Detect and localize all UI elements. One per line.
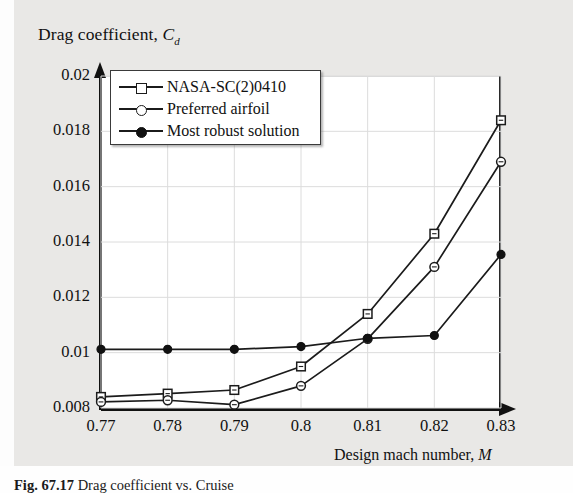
figure-caption: Fig. 67.17 Drag coefficient vs. Cruise	[14, 477, 234, 493]
marker-filled-circle-icon	[164, 345, 172, 353]
marker-filled-circle-icon	[430, 332, 438, 340]
marker-filled-circle-icon	[230, 345, 238, 353]
x-axis-title: Design mach number, M	[334, 446, 492, 464]
x-tick-label: 0.79	[204, 416, 264, 436]
figure-caption-rest: Drag coefficient vs. Cruise	[74, 477, 234, 493]
chart-legend: NASA-SC(2)0410Preferred airfoilMost robu…	[110, 70, 321, 145]
open-circle-marker-icon	[119, 102, 163, 116]
y-tick-label: 0.014	[0, 231, 90, 251]
marker-filled-circle-icon	[497, 250, 505, 258]
y-tick-label: 0.012	[0, 286, 90, 306]
x-tick-label: 0.8	[271, 416, 331, 436]
legend-item[interactable]: NASA-SC(2)0410	[119, 76, 286, 98]
marker-filled-circle-icon	[297, 343, 305, 351]
x-axis-title-text: Design mach number,	[334, 446, 478, 463]
figure-caption-label: Fig. 67.17	[14, 477, 74, 493]
y-tick-label: 0.02	[0, 65, 90, 85]
x-tick-label: 0.83	[471, 416, 531, 436]
y-tick-label: 0.008	[0, 397, 90, 417]
open-square-marker-icon	[136, 83, 147, 94]
legend-item-label: NASA-SC(2)0410	[167, 78, 286, 96]
x-axis-title-symbol: M	[478, 446, 491, 463]
x-tick-label: 0.82	[404, 416, 464, 436]
x-tick-label: 0.78	[138, 416, 198, 436]
legend-item[interactable]: Most robust solution	[119, 120, 299, 142]
y-tick-label: 0.016	[0, 176, 90, 196]
open-circle-marker-icon	[136, 105, 147, 116]
x-tick-label: 0.81	[338, 416, 398, 436]
open-square-marker-icon	[119, 80, 163, 94]
filled-circle-marker-icon	[136, 127, 147, 138]
marker-filled-circle-icon	[364, 334, 372, 342]
filled-circle-marker-icon	[119, 124, 163, 138]
y-tick-label: 0.01	[0, 342, 90, 362]
marker-filled-circle-icon	[97, 345, 105, 353]
legend-item-label: Most robust solution	[167, 122, 299, 140]
figure-chart: Drag coefficient, Cd 0.0080.010.0120.014…	[0, 0, 573, 466]
legend-item-label: Preferred airfoil	[167, 100, 270, 118]
y-tick-label: 0.018	[0, 120, 90, 140]
x-tick-label: 0.77	[71, 416, 131, 436]
legend-item[interactable]: Preferred airfoil	[119, 98, 270, 120]
